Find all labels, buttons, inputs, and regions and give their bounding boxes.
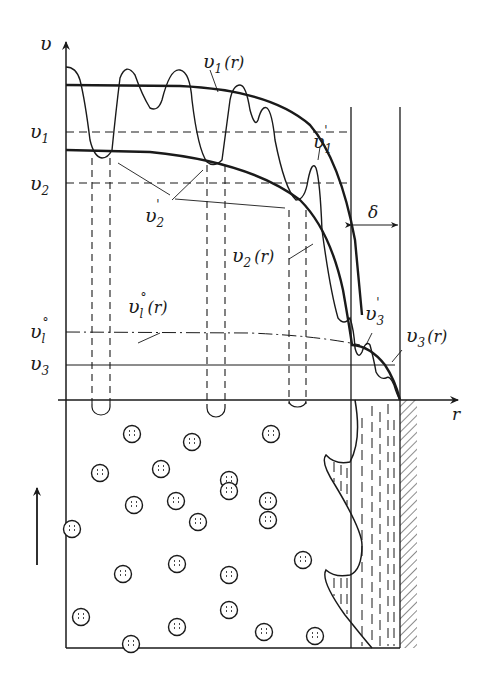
bubble-columns <box>92 158 306 404</box>
label-v3r: υ3(r) <box>406 324 447 350</box>
bubble <box>123 636 140 653</box>
svg-text:υ2(r): υ2(r) <box>232 244 274 270</box>
bubble <box>64 521 81 538</box>
bubble <box>168 493 185 510</box>
svg-text:υ2': υ2' <box>145 198 164 230</box>
instantaneous-velocity-trace <box>66 67 400 400</box>
bubble <box>92 465 109 482</box>
bubble <box>256 624 273 641</box>
bubble-caps <box>92 401 306 417</box>
flow-diagram: υ r δ υ1 υ2 υl° υ3 <box>0 0 480 674</box>
bubble <box>169 556 186 573</box>
svg-text:υ1': υ1' <box>313 124 332 156</box>
bubble <box>184 434 201 451</box>
svg-text:υ1(r): υ1(r) <box>203 50 244 76</box>
bubble <box>169 619 186 636</box>
bubble <box>295 552 312 569</box>
svg-text:υl°(r): υl°(r) <box>128 291 168 321</box>
bubble <box>221 483 238 500</box>
label-v1-prime: υ1' <box>313 124 332 156</box>
label-v2-prime: υ2' <box>145 198 164 230</box>
bubble <box>263 426 280 443</box>
bubble <box>124 426 141 443</box>
bubbles <box>64 426 324 653</box>
bubble <box>260 493 277 510</box>
svg-text:υ1: υ1 <box>30 120 49 146</box>
svg-text:υ3: υ3 <box>30 352 50 378</box>
delta-label: δ <box>368 202 378 222</box>
svg-text:υ2: υ2 <box>30 172 49 198</box>
bubble <box>221 567 238 584</box>
bubble <box>73 609 90 626</box>
label-v1: υ1 <box>30 120 49 146</box>
bubble <box>221 602 238 619</box>
bubble <box>153 461 170 478</box>
wall-hatching <box>400 400 417 648</box>
bubble <box>115 566 132 583</box>
label-v1r: υ1(r) <box>203 50 244 76</box>
liquid-film-dashes <box>334 404 394 646</box>
label-vl0r: υl°(r) <box>128 291 168 321</box>
y-axis-label: υ <box>40 32 52 54</box>
phase-interface <box>324 400 372 648</box>
curve-v2r <box>66 150 400 400</box>
svg-text:υl°: υl° <box>30 316 48 346</box>
bubble <box>126 497 143 514</box>
label-vl0: υl° <box>30 316 48 346</box>
x-axis-label: r <box>452 404 461 424</box>
label-v2: υ2 <box>30 172 49 198</box>
bubble <box>307 628 324 645</box>
bubble <box>260 512 277 529</box>
bubble <box>190 514 207 531</box>
svg-text:υ3(r): υ3(r) <box>406 324 447 350</box>
label-v3-prime: υ3' <box>365 296 385 328</box>
label-v3: υ3 <box>30 352 50 378</box>
label-v2r: υ2(r) <box>232 244 274 270</box>
svg-text:υ3': υ3' <box>365 296 385 328</box>
